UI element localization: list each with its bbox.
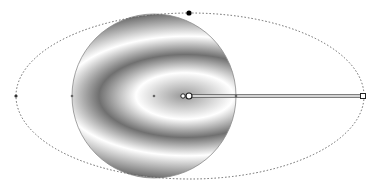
shape-right-node[interactable] [235,95,238,98]
ellipse-left-node[interactable] [14,94,17,97]
gradient-radius-y-handle[interactable] [186,10,191,15]
gradient-center-handle[interactable] [186,93,192,99]
shape-left-node[interactable] [71,95,74,98]
shape-center-node[interactable] [153,95,156,98]
canvas-svg [0,0,375,192]
gradient-radius-x-handle[interactable] [361,94,366,99]
gradient-focus-handle[interactable] [181,94,185,98]
drawing-canvas[interactable] [0,0,375,192]
